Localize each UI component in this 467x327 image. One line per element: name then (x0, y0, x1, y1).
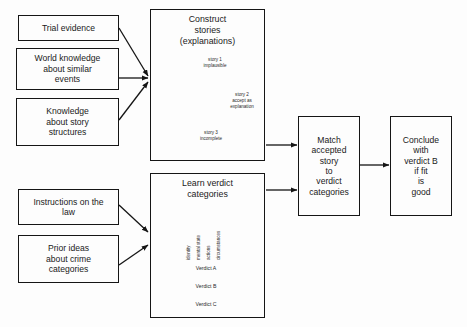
story-label-2: story 2 accept as explanation (221, 92, 263, 110)
stage-box-conclude-verdict[interactable]: Conclude with verdict B if fit is good (390, 116, 452, 216)
input-box-instructions-on-law[interactable]: Instructions on the law (18, 189, 119, 225)
stage-title-learn-verdict-categories: Learn verdict categories (150, 178, 265, 200)
feature-label-circumstances: circumstances (216, 231, 221, 260)
arrow-evidence-to-construct (119, 28, 148, 76)
input-box-world-knowledge[interactable]: World knowledge about similar events (16, 48, 119, 90)
input-box-story-structures[interactable]: Knowledge about story structures (16, 98, 119, 146)
arrow-structures-to-construct (119, 82, 148, 120)
input-box-prior-ideas[interactable]: Prior ideas about crime categories (18, 235, 119, 283)
feature-label-identity: identity (186, 245, 191, 260)
stage-box-match-story-to-categories[interactable]: Match accepted story to verdict categori… (298, 116, 360, 216)
story-label-3: story 3 incomplete (190, 130, 232, 142)
arrow-instructions-to-learn (119, 205, 148, 232)
story-label-1: story 1 implausible (194, 57, 236, 69)
feature-label-actions: actions (206, 245, 211, 260)
diagram-canvas: Trial evidence World knowledge about sim… (0, 0, 467, 327)
verdict-label-c: Verdict C (186, 301, 226, 307)
stage-title-construct-stories: Construct stories (explanations) (150, 14, 265, 47)
input-box-trial-evidence[interactable]: Trial evidence (18, 15, 119, 41)
verdict-label-a: Verdict A (186, 265, 226, 271)
arrow-prior-to-learn (119, 245, 148, 265)
feature-label-mental-state: mental state (196, 235, 201, 260)
verdict-label-b: Verdict B (186, 283, 226, 289)
